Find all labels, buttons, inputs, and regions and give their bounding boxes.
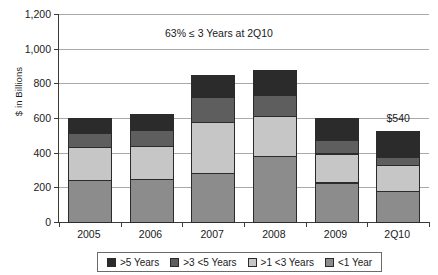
bar-segment[interactable] xyxy=(130,114,174,129)
legend-label: <1 Year xyxy=(338,257,372,268)
chart-legend: >5 Years>3 <5 Years>1 <3 Years<1 Year xyxy=(97,252,382,272)
bar-group[interactable] xyxy=(315,14,359,222)
x-tick-mark xyxy=(429,222,430,227)
bar-segment[interactable] xyxy=(191,97,235,123)
bar-segment[interactable] xyxy=(68,118,112,133)
bar-segment[interactable] xyxy=(376,191,420,223)
bar-group[interactable]: $540 xyxy=(376,14,420,222)
bar-segment[interactable] xyxy=(130,130,174,147)
bar-segment[interactable] xyxy=(191,75,235,97)
x-tick-mark xyxy=(244,222,245,227)
bar-stack[interactable] xyxy=(68,118,112,222)
bar-stack[interactable] xyxy=(376,131,420,222)
bars-layer: $540 xyxy=(59,14,429,222)
bar-segment[interactable] xyxy=(68,147,112,182)
bar-value-label: $540 xyxy=(366,112,430,124)
bar-stack[interactable] xyxy=(130,114,174,222)
plot-area: 02004006008001,0001,200 $540 xyxy=(58,14,429,223)
stacked-bar-chart: $ in Billions 63% ≤ 3 Years at 2Q10 0200… xyxy=(0,0,438,275)
x-tick-mark xyxy=(182,222,183,227)
bar-group[interactable] xyxy=(191,14,235,222)
bar-segment[interactable] xyxy=(253,70,297,95)
y-tick-label: 1,000 xyxy=(25,43,51,55)
bar-segment[interactable] xyxy=(130,179,174,223)
y-tick-label: 200 xyxy=(33,181,51,193)
y-axis-title: $ in Billions xyxy=(13,42,24,142)
bar-segment[interactable] xyxy=(376,165,420,192)
bar-segment[interactable] xyxy=(191,173,235,223)
legend-item[interactable]: >5 Years xyxy=(107,257,159,268)
legend-swatch-icon xyxy=(107,258,116,267)
bar-segment[interactable] xyxy=(68,133,112,148)
bar-segment[interactable] xyxy=(315,140,359,154)
y-tick-label: 800 xyxy=(33,77,51,89)
bar-segment[interactable] xyxy=(191,122,235,174)
legend-label: >3 <5 Years xyxy=(183,257,236,268)
legend-item[interactable]: <1 Year xyxy=(325,257,372,268)
bar-stack[interactable] xyxy=(253,70,297,222)
bar-segment[interactable] xyxy=(315,118,359,140)
bar-group[interactable] xyxy=(130,14,174,222)
bar-group[interactable] xyxy=(68,14,112,222)
bar-segment[interactable] xyxy=(68,180,112,222)
bar-segment[interactable] xyxy=(253,116,297,157)
x-tick-mark xyxy=(306,222,307,227)
bar-segment[interactable] xyxy=(315,183,359,223)
legend-label: >5 Years xyxy=(120,257,159,268)
bar-stack[interactable] xyxy=(191,75,235,222)
x-tick-mark xyxy=(121,222,122,227)
legend-item[interactable]: >3 <5 Years xyxy=(170,257,236,268)
x-tick-mark xyxy=(367,222,368,227)
legend-swatch-icon xyxy=(248,258,257,267)
y-tick-label: 600 xyxy=(33,112,51,124)
x-tick-mark xyxy=(59,222,60,227)
legend-item[interactable]: >1 <3 Years xyxy=(248,257,314,268)
y-tick-label: 0 xyxy=(45,216,51,228)
bar-segment[interactable] xyxy=(315,154,359,184)
bar-segment[interactable] xyxy=(253,95,297,117)
bar-stack[interactable] xyxy=(315,118,359,222)
legend-swatch-icon xyxy=(170,258,179,267)
y-tick-label: 400 xyxy=(33,147,51,159)
bar-group[interactable] xyxy=(253,14,297,222)
bar-segment[interactable] xyxy=(376,131,420,157)
x-tick-label: 2Q10 xyxy=(357,228,437,240)
bar-segment[interactable] xyxy=(253,156,297,223)
bar-segment[interactable] xyxy=(130,146,174,180)
y-tick-label: 1,200 xyxy=(25,8,51,20)
legend-swatch-icon xyxy=(325,258,334,267)
legend-label: >1 <3 Years xyxy=(261,257,314,268)
